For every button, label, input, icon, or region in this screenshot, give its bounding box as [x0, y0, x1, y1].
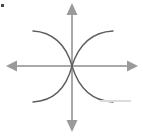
axis-arrow-right-icon — [127, 61, 138, 72]
scan-speck-top-left — [1, 4, 4, 7]
axis-arrow-down-icon — [67, 120, 78, 132]
curve-lower-right-branch — [72, 66, 113, 102]
graph-figure — [0, 0, 143, 136]
axis-arrow-left-icon — [6, 61, 17, 72]
curve-lower-left-branch — [33, 66, 72, 102]
axis-arrow-up-icon — [67, 3, 78, 15]
curve-upper-right-branch — [72, 31, 113, 66]
coordinate-plane-svg — [0, 0, 143, 136]
curve-upper-left-branch — [33, 31, 72, 66]
scan-smudge-bottom-right — [100, 100, 131, 102]
